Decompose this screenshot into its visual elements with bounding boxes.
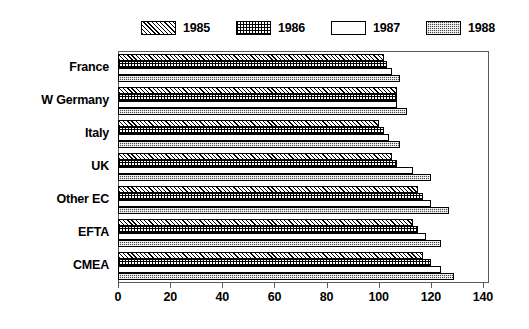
bar bbox=[118, 266, 441, 273]
x-axis-tick-label: 80 bbox=[320, 290, 334, 304]
bar bbox=[118, 54, 384, 61]
x-axis-tick-label: 140 bbox=[473, 290, 493, 304]
legend-entry-1985: 1985 bbox=[141, 21, 210, 35]
bar bbox=[118, 141, 400, 148]
bar bbox=[118, 94, 397, 101]
bar-chart: 1985 1986 1987 1988 FranceW GermanyItaly… bbox=[0, 0, 529, 329]
category-label: Italy bbox=[85, 126, 109, 140]
x-axis-tick-label: 40 bbox=[216, 290, 230, 304]
legend-label-1987: 1987 bbox=[373, 21, 400, 35]
x-axis-ticks bbox=[118, 283, 489, 289]
x-axis-tick bbox=[222, 283, 223, 288]
legend-label-1986: 1986 bbox=[278, 21, 305, 35]
x-axis-tick-label: 0 bbox=[115, 290, 122, 304]
legend-entry-1988: 1988 bbox=[426, 21, 495, 35]
x-axis-tick bbox=[170, 283, 171, 288]
x-axis-tick-label: 120 bbox=[421, 290, 441, 304]
bar bbox=[118, 68, 392, 75]
category-label: CMEA bbox=[73, 258, 109, 272]
bar-group bbox=[118, 117, 489, 150]
legend-label-1988: 1988 bbox=[468, 21, 495, 35]
x-axis-labels: 020406080100120140 bbox=[0, 290, 529, 308]
legend-swatch-1988-icon bbox=[426, 21, 461, 35]
x-axis-tick bbox=[431, 283, 432, 288]
bar bbox=[118, 186, 418, 193]
bar bbox=[118, 153, 392, 160]
legend-swatch-1985-icon bbox=[141, 21, 176, 35]
bar bbox=[118, 273, 454, 280]
x-axis-tick bbox=[118, 283, 119, 288]
x-axis-tick bbox=[274, 283, 275, 288]
bar-group bbox=[118, 217, 489, 250]
bar-group bbox=[118, 84, 489, 117]
legend-swatch-1987-icon bbox=[331, 21, 366, 35]
bar-group bbox=[118, 150, 489, 183]
bar bbox=[118, 61, 387, 68]
x-axis-tick bbox=[483, 283, 484, 288]
legend-entry-1987: 1987 bbox=[331, 21, 400, 35]
legend-entry-1986: 1986 bbox=[236, 21, 305, 35]
bar bbox=[118, 259, 431, 266]
category-label: Other EC bbox=[56, 192, 109, 206]
bar-group bbox=[118, 184, 489, 217]
bar bbox=[118, 167, 413, 174]
bar bbox=[118, 134, 389, 141]
category-label: UK bbox=[91, 159, 109, 173]
x-axis-tick bbox=[327, 283, 328, 288]
bar bbox=[118, 108, 407, 115]
x-axis-tick-label: 100 bbox=[369, 290, 389, 304]
bar-group bbox=[118, 250, 489, 283]
bar bbox=[118, 233, 426, 240]
bar bbox=[118, 101, 397, 108]
bar bbox=[118, 75, 400, 82]
category-label: W Germany bbox=[41, 93, 109, 107]
x-axis-tick-label: 60 bbox=[268, 290, 282, 304]
category-label: France bbox=[69, 60, 109, 74]
x-axis-tick bbox=[379, 283, 380, 288]
category-axis-labels: FranceW GermanyItalyUKOther ECEFTACMEA bbox=[0, 51, 113, 283]
chart-legend: 1985 1986 1987 1988 bbox=[141, 19, 451, 36]
bar bbox=[118, 219, 413, 226]
bar bbox=[118, 87, 397, 94]
legend-label-1985: 1985 bbox=[183, 21, 210, 35]
x-axis-tick-label: 20 bbox=[163, 290, 177, 304]
category-label: EFTA bbox=[78, 225, 109, 239]
bar bbox=[118, 240, 441, 247]
plot-area bbox=[118, 51, 489, 283]
bar bbox=[118, 193, 423, 200]
bar-group bbox=[118, 51, 489, 84]
bar bbox=[118, 226, 418, 233]
bar bbox=[118, 127, 384, 134]
bar bbox=[118, 252, 423, 259]
bar bbox=[118, 200, 431, 207]
bar bbox=[118, 174, 431, 181]
bar bbox=[118, 207, 449, 214]
bar bbox=[118, 120, 379, 127]
legend-swatch-1986-icon bbox=[236, 21, 271, 35]
bar bbox=[118, 160, 397, 167]
